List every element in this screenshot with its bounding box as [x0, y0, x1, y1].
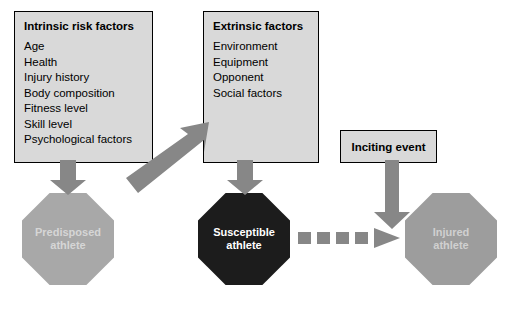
arrow-down-icon-intrinsic-to-predisposed [48, 160, 88, 196]
intrinsic-item-health: Health [24, 55, 143, 71]
intrinsic-item-body-composition: Body composition [24, 86, 143, 102]
extrinsic-item-social-factors: Social factors [213, 86, 309, 102]
extrinsic-item-opponent: Opponent [213, 70, 309, 86]
extrinsic-factors-box: Extrinsic factors Environment Equipment … [203, 11, 319, 163]
node-predisposed-label-line2: athlete [50, 239, 85, 252]
intrinsic-item-injury-history: Injury history [24, 70, 143, 86]
node-predisposed-label-line1: Predisposed [35, 226, 101, 239]
inciting-box-title: Inciting event [351, 140, 425, 154]
arrow-down-icon-extrinsic-to-susceptible [225, 160, 265, 196]
node-predisposed-athlete: Predisposed athlete [22, 193, 114, 285]
extrinsic-box-title: Extrinsic factors [213, 19, 309, 33]
extrinsic-item-environment: Environment [213, 39, 309, 55]
node-susceptible-label-line1: Susceptible [213, 226, 275, 239]
injury-causation-diagram: Intrinsic risk factors Age Health Injury… [0, 0, 524, 320]
intrinsic-item-fitness-level: Fitness level [24, 101, 143, 117]
node-susceptible-label-line2: athlete [226, 239, 261, 252]
node-susceptible-athlete: Susceptible athlete [198, 193, 290, 285]
arrow-down-icon-inciting-event [372, 160, 412, 230]
arrow-up-right-icon-predisposed-to-susceptible [126, 118, 210, 194]
arrow-right-dotted-icon-susceptible-to-injured [298, 228, 402, 254]
extrinsic-item-equipment: Equipment [213, 55, 309, 71]
node-injured-label-line2: athlete [433, 239, 468, 252]
intrinsic-box-title: Intrinsic risk factors [24, 19, 143, 33]
inciting-event-box: Inciting event [340, 130, 437, 163]
intrinsic-item-age: Age [24, 39, 143, 55]
node-injured-label-line1: Injured [433, 226, 470, 239]
node-injured-athlete: Injured athlete [405, 193, 497, 285]
